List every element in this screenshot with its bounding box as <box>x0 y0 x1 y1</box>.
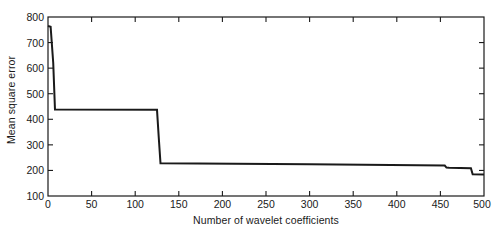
x-axis-label: Number of wavelet coefficients <box>48 214 484 226</box>
chart-figure: Mean square error 800 700 600 500 400 30… <box>0 0 497 236</box>
axes-frame <box>48 17 484 196</box>
plot-area <box>0 0 497 236</box>
